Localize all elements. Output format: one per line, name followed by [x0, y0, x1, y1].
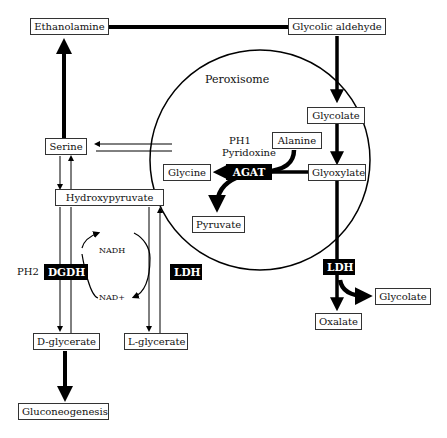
glycolate-peroxisome-node: Glycolate: [307, 107, 365, 124]
ethanolamine-node: Ethanolamine: [30, 18, 109, 35]
ph2-label: PH2: [17, 266, 39, 277]
d-glycerate-node: D-glycerate: [33, 333, 100, 350]
ldh-enzyme-left: LDH: [170, 264, 202, 280]
glycolate-cytosol-node: Glycolate: [375, 288, 431, 305]
serine-node: Serine: [45, 138, 87, 155]
gluconeogenesis-node: Gluconeogenesis: [18, 403, 109, 420]
oxalate-node: Oxalate: [315, 313, 362, 330]
peroxisome-label: Peroxisome: [205, 73, 269, 86]
glyoxylate-node: Glyoxylate: [308, 164, 366, 181]
nad-plus-label: NAD+: [99, 293, 125, 302]
glycolic-aldehyde-node: Glycolic aldehyde: [288, 18, 386, 35]
dgdh-enzyme: DGDH: [44, 264, 88, 280]
nadh-label: NADH: [99, 246, 125, 255]
hydroxypyruvate-node: Hydroxypyruvate: [55, 189, 164, 206]
glycine-node: Glycine: [163, 164, 211, 181]
l-glycerate-node: L-glycerate: [124, 333, 188, 350]
ph1-label: PH1: [229, 135, 251, 146]
ldh-enzyme-right: LDH: [323, 259, 355, 275]
pyridoxine-label: Pyridoxine: [222, 147, 276, 158]
agat-enzyme: AGAT: [226, 164, 272, 180]
pyruvate-node: Pyruvate: [192, 216, 245, 233]
alanine-node: Alanine: [272, 132, 322, 149]
